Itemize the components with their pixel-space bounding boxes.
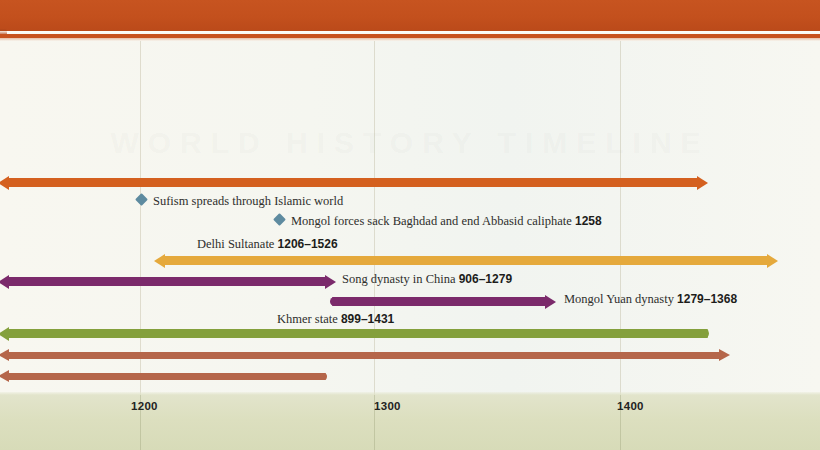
bar-label-song-years: 906–1279 — [459, 272, 512, 286]
timeline-bar-delhi-sultanate[interactable] — [164, 256, 769, 265]
timeline-bar-delhi-sultanate-right-arrow-icon — [767, 254, 778, 268]
bar-label-yuan-years: 1279–1368 — [677, 292, 737, 306]
bar-label-delhi-text: Delhi Sultanate — [197, 237, 274, 251]
timeline-bar-unlabelled-span-upper-right-arrow-icon — [719, 349, 730, 361]
bar-label-delhi-years: 1206–1526 — [278, 237, 338, 251]
axis-tick-1200: 1200 — [131, 400, 158, 412]
timeline-bar-delhi-sultanate-left-arrow-icon — [154, 254, 165, 268]
event-label-baghdad: Mongol forces sack Baghdad and end Abbas… — [291, 215, 602, 228]
bar-label-mongol-yuan: Mongol Yuan dynasty 1279–1368 — [564, 293, 737, 306]
bar-label-delhi-sultanate: Delhi Sultanate 1206–1526 — [197, 238, 338, 251]
bar-label-yuan-text: Mongol Yuan dynasty — [564, 292, 674, 306]
timeline-bar-mongol-yuan-dynasty[interactable] — [332, 297, 547, 306]
gridline-1400 — [620, 41, 621, 395]
bar-label-khmer-text: Khmer state — [277, 312, 338, 326]
axis-band — [0, 395, 820, 450]
timeline-bar-islamic-world-span-left-arrow-icon — [0, 176, 9, 190]
event-label-sufism-text: Sufism spreads through Islamic world — [153, 194, 343, 208]
timeline-bar-islamic-world-span-right-arrow-icon — [697, 176, 708, 190]
timeline-bar-mongol-yuan-dynasty-left-cap — [330, 297, 339, 306]
timeline-page: WORLD HISTORY TIMELINE Sufism spreads th… — [0, 0, 820, 450]
event-label-baghdad-text: Mongol forces sack Baghdad and end Abbas… — [291, 214, 572, 228]
header-band — [0, 0, 820, 31]
timeline-bar-unlabelled-span-upper[interactable] — [8, 352, 721, 359]
bar-label-khmer-years: 899–1431 — [341, 312, 394, 326]
timeline-bar-mongol-yuan-dynasty-right-arrow-icon — [545, 295, 556, 309]
timeline-bar-song-dynasty[interactable] — [8, 277, 327, 286]
timeline-bar-unlabelled-span-upper-left-arrow-icon — [0, 349, 9, 361]
timeline-bar-unlabelled-span-lower[interactable] — [8, 373, 326, 380]
bar-label-song-dynasty: Song dynasty in China 906–1279 — [342, 273, 512, 286]
bar-label-song-text: Song dynasty in China — [342, 272, 456, 286]
timeline-bar-unlabelled-span-lower-left-arrow-icon — [0, 370, 9, 382]
event-label-sufism: Sufism spreads through Islamic world — [153, 195, 343, 208]
gridline-1200 — [140, 41, 141, 395]
timeline-bar-song-dynasty-right-arrow-icon — [325, 275, 336, 289]
timeline-bar-islamic-world-span[interactable] — [8, 178, 699, 187]
axis-tick-1300: 1300 — [374, 400, 401, 412]
timeline-bar-khmer-state[interactable] — [8, 329, 708, 338]
timeline-bar-khmer-state-left-arrow-icon — [0, 327, 9, 341]
timeline-bar-khmer-state-right-cap — [700, 329, 709, 338]
timeline-bar-unlabelled-span-lower-right-cap — [320, 373, 327, 380]
timeline-bar-song-dynasty-left-arrow-icon — [0, 275, 9, 289]
axis-tick-1400: 1400 — [617, 400, 644, 412]
bar-label-khmer-state: Khmer state 899–1431 — [277, 313, 394, 326]
event-label-baghdad-year: 1258 — [575, 214, 602, 228]
watermark-text: WORLD HISTORY TIMELINE — [0, 126, 820, 160]
